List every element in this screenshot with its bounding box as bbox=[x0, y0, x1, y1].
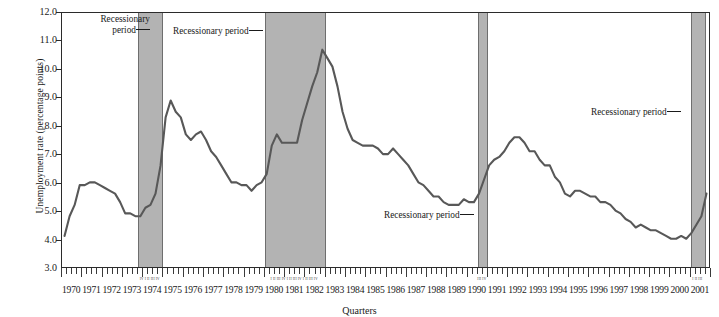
quarter-tick bbox=[598, 268, 599, 274]
quarter-tick bbox=[112, 268, 113, 274]
quarter-tick bbox=[249, 268, 250, 274]
year-label: 1993 bbox=[528, 284, 546, 295]
year-label: 1983 bbox=[326, 284, 344, 295]
quarter-tick bbox=[695, 268, 696, 274]
quarter-tick bbox=[543, 268, 544, 274]
y-tick-label: 7.0 bbox=[17, 149, 57, 159]
leader-line-4 bbox=[667, 111, 681, 112]
x-axis-label: Quarters bbox=[0, 305, 719, 316]
quarter-tick bbox=[472, 268, 473, 274]
quarter-tick bbox=[533, 268, 534, 274]
quarter-tick bbox=[396, 268, 397, 274]
year-label: 1994 bbox=[549, 284, 567, 295]
quarter-tick bbox=[563, 268, 564, 274]
quarter-tick bbox=[441, 268, 442, 274]
quarter-tick bbox=[573, 268, 574, 274]
quarter-tick bbox=[669, 268, 670, 277]
quarter-tick bbox=[61, 268, 62, 277]
quarter-tick bbox=[710, 268, 711, 277]
quarter-tick bbox=[467, 268, 468, 277]
annotation-recession-3: Recessionary period bbox=[384, 210, 474, 221]
quarter-tick bbox=[315, 268, 316, 274]
quarter-tick bbox=[654, 268, 655, 274]
quarter-tick bbox=[517, 268, 518, 274]
quarter-tick bbox=[254, 268, 255, 274]
quarter-tick bbox=[264, 268, 265, 277]
quarter-tick bbox=[487, 268, 488, 277]
annotation-2-line1: Recessionary period bbox=[173, 26, 249, 36]
year-label: 1976 bbox=[184, 284, 202, 295]
quarter-tick bbox=[604, 268, 605, 274]
quarter-tick bbox=[193, 268, 194, 274]
y-tick-label: 5.0 bbox=[17, 206, 57, 216]
year-label: 1990 bbox=[468, 284, 486, 295]
year-label: 1985 bbox=[366, 284, 384, 295]
quarter-tick bbox=[66, 268, 67, 274]
year-label: 1975 bbox=[163, 284, 181, 295]
quarter-roman-label-group: III IV bbox=[477, 277, 487, 281]
quarter-tick bbox=[183, 268, 184, 277]
year-label: 1992 bbox=[508, 284, 526, 295]
quarter-tick bbox=[462, 268, 463, 274]
year-label: 1984 bbox=[346, 284, 364, 295]
quarter-tick bbox=[345, 268, 346, 277]
year-label: 1991 bbox=[488, 284, 506, 295]
quarter-tick bbox=[132, 268, 133, 274]
quarter-tick bbox=[391, 268, 392, 274]
quarter-tick bbox=[527, 268, 528, 277]
year-label: 1970 bbox=[62, 284, 80, 295]
quarter-tick bbox=[244, 268, 245, 277]
quarter-tick bbox=[152, 268, 153, 274]
quarter-tick bbox=[178, 268, 179, 274]
quarter-tick bbox=[421, 268, 422, 274]
quarter-tick bbox=[284, 268, 285, 277]
year-label: 2001 bbox=[691, 284, 709, 295]
quarter-tick bbox=[705, 268, 706, 274]
quarter-tick bbox=[223, 268, 224, 277]
quarter-roman-label-group: I II III IV I II III IV I II III IV bbox=[264, 277, 325, 281]
quarter-tick bbox=[497, 268, 498, 274]
quarter-tick bbox=[91, 268, 92, 274]
quarter-tick bbox=[553, 268, 554, 274]
y-tick-label: 11.0 bbox=[17, 35, 57, 45]
quarter-tick bbox=[350, 268, 351, 274]
year-label: 1973 bbox=[123, 284, 141, 295]
quarter-tick bbox=[386, 268, 387, 277]
y-axis-label: Unemployment rate (percentage points) bbox=[35, 11, 45, 261]
quarter-tick bbox=[86, 268, 87, 274]
quarter-tick bbox=[578, 268, 579, 274]
leader-line-2 bbox=[249, 30, 263, 31]
plot-area bbox=[61, 12, 710, 268]
annotation-4-line1: Recessionary period bbox=[591, 107, 667, 117]
x-axis-year-labels: 1970197119721973197419751976197719781979… bbox=[61, 284, 710, 298]
quarter-tick bbox=[355, 268, 356, 274]
quarter-tick bbox=[279, 268, 280, 274]
year-label: 1996 bbox=[589, 284, 607, 295]
quarter-tick bbox=[588, 268, 589, 277]
annotation-recession-2: Recessionary period bbox=[173, 26, 263, 37]
quarter-roman-label-group: IV I II III IV bbox=[137, 277, 162, 281]
quarter-tick bbox=[96, 268, 97, 274]
quarter-tick bbox=[370, 268, 371, 274]
quarter-tick bbox=[426, 268, 427, 277]
quarter-tick bbox=[203, 268, 204, 277]
quarter-tick bbox=[309, 268, 310, 274]
year-label: 1982 bbox=[305, 284, 323, 295]
quarter-tick bbox=[127, 268, 128, 274]
year-label: 2000 bbox=[670, 284, 688, 295]
quarter-tick bbox=[102, 268, 103, 277]
unemployment-line-series bbox=[62, 13, 709, 267]
quarter-tick bbox=[685, 268, 686, 274]
year-label: 1980 bbox=[265, 284, 283, 295]
quarter-tick bbox=[162, 268, 163, 277]
year-label: 1999 bbox=[650, 284, 668, 295]
quarter-tick bbox=[522, 268, 523, 274]
quarter-tick bbox=[644, 268, 645, 274]
y-tick-label: 12.0 bbox=[17, 7, 57, 17]
leader-line-1 bbox=[136, 29, 150, 30]
quarter-tick bbox=[360, 268, 361, 274]
quarter-tick bbox=[157, 268, 158, 274]
quarter-tick bbox=[137, 268, 138, 274]
quarter-tick bbox=[411, 268, 412, 274]
quarter-tick bbox=[492, 268, 493, 274]
